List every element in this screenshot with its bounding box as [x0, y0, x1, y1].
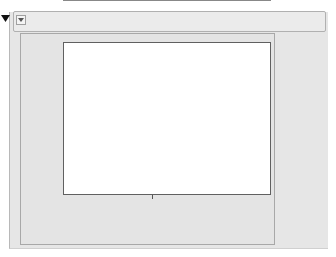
plot-area	[63, 42, 271, 195]
report-title-bar[interactable]	[13, 11, 326, 32]
grand-mean-line	[63, 0, 271, 1]
red-triangle-menu-icon[interactable]	[16, 15, 26, 25]
disclosure-triangle-icon[interactable]	[1, 14, 10, 23]
x-tick-mark	[152, 195, 153, 199]
